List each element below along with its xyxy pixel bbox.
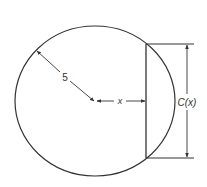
distance-label: x [117, 96, 123, 106]
circle-chord-diagram: C(x) 5 x [0, 0, 207, 187]
circle [15, 26, 175, 176]
radius-label: 5 [62, 72, 68, 83]
radius-arrow-upper [37, 51, 60, 72]
radius-arrow-lower [70, 81, 94, 101]
chord-label: C(x) [178, 97, 197, 108]
